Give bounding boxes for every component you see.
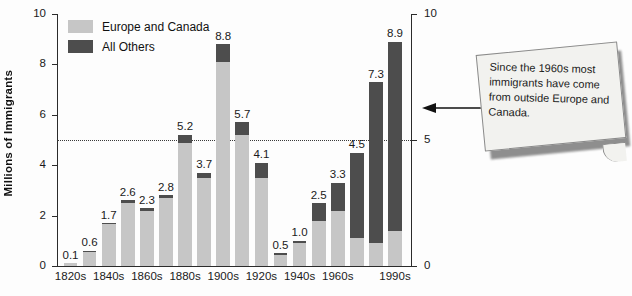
legend-label-all-others: All Others bbox=[102, 41, 155, 53]
left-tick-label-2: 2 bbox=[16, 210, 46, 222]
left-tick-8 bbox=[52, 64, 57, 65]
bar-segment-europe-and-canada bbox=[64, 263, 78, 266]
right-tick-0 bbox=[412, 266, 417, 267]
bar-1970s: 4.5 bbox=[350, 153, 364, 266]
callout-note: Since the 1960s most immigrants have com… bbox=[478, 48, 628, 160]
bar-segment-all-others bbox=[216, 44, 230, 62]
bar-segment-europe-and-canada bbox=[369, 243, 383, 266]
bar-1860s: 2.3 bbox=[140, 208, 154, 266]
left-tick-4 bbox=[52, 165, 57, 166]
x-tick-label-1900s: 1900s bbox=[208, 271, 239, 283]
bar-segment-all-others bbox=[121, 200, 135, 203]
x-tick-label-1940s: 1940s bbox=[284, 271, 315, 283]
bar-value-label: 1.0 bbox=[292, 227, 308, 239]
bar-value-label: 0.6 bbox=[82, 237, 98, 249]
x-tick-label-1920s: 1920s bbox=[246, 271, 277, 283]
bar-segment-europe-and-canada bbox=[178, 143, 192, 266]
bar-segment-all-others bbox=[293, 241, 307, 244]
bar-segment-all-others bbox=[388, 42, 402, 231]
bar-1870s: 2.8 bbox=[159, 195, 173, 266]
legend-item-europe-and-canada: Europe and Canada bbox=[68, 18, 209, 35]
x-tick-label-1880s: 1880s bbox=[169, 271, 200, 283]
bar-segment-all-others bbox=[159, 195, 173, 198]
left-tick-6 bbox=[52, 115, 57, 116]
bar-segment-europe-and-canada bbox=[159, 198, 173, 266]
bar-1940s: 1.0 bbox=[293, 241, 307, 266]
right-tick-5 bbox=[412, 140, 417, 141]
bar-value-label: 8.8 bbox=[215, 31, 231, 43]
bar-value-label: 4.1 bbox=[253, 149, 269, 161]
bar-segment-all-others bbox=[274, 253, 288, 254]
left-tick-label-4: 4 bbox=[16, 159, 46, 171]
bar-1950s: 2.5 bbox=[312, 203, 326, 266]
bar-segment-all-others bbox=[312, 203, 326, 221]
left-tick-label-8: 8 bbox=[16, 58, 46, 70]
bar-value-label: 0.1 bbox=[63, 250, 79, 262]
bar-1840s: 1.7 bbox=[102, 223, 116, 266]
left-tick-label-10: 10 bbox=[16, 8, 46, 20]
x-tick-label-1990s: 1990s bbox=[379, 271, 410, 283]
left-tick-label-6: 6 bbox=[16, 109, 46, 121]
right-tick-10 bbox=[412, 14, 417, 15]
bar-segment-all-others bbox=[83, 251, 97, 252]
bar-1900s: 8.8 bbox=[216, 44, 230, 266]
left-tick-2 bbox=[52, 216, 57, 217]
bar-segment-all-others bbox=[235, 122, 249, 135]
x-tick-label-1860s: 1860s bbox=[131, 271, 162, 283]
bar-segment-europe-and-canada bbox=[197, 178, 211, 266]
legend-item-all-others: All Others bbox=[68, 38, 209, 55]
bar-segment-all-others bbox=[197, 173, 211, 178]
legend-swatch-all-others bbox=[68, 40, 93, 53]
right-tick-label-10: 10 bbox=[424, 8, 454, 20]
bar-segment-all-others bbox=[369, 82, 383, 243]
bar-value-label: 3.7 bbox=[196, 159, 212, 171]
bar-segment-europe-and-canada bbox=[388, 231, 402, 266]
bar-1990s: 8.9 bbox=[388, 42, 402, 266]
bar-segment-all-others bbox=[331, 183, 345, 211]
bar-segment-europe-and-canada bbox=[235, 135, 249, 266]
callout-arrow-icon bbox=[420, 101, 482, 115]
legend-swatch-europe-and-canada bbox=[68, 20, 93, 33]
legend-label-europe-and-canada: Europe and Canada bbox=[102, 21, 209, 33]
bar-value-label: 2.8 bbox=[158, 182, 174, 194]
callout-text: Since the 1960s most immigrants have com… bbox=[488, 59, 612, 122]
right-tick-label-5: 5 bbox=[424, 134, 454, 146]
left-tick-0 bbox=[52, 266, 57, 267]
chart-figure: Millions of Immigrants 0246810 0510 0.10… bbox=[0, 0, 632, 296]
bar-value-label: 8.9 bbox=[387, 28, 403, 40]
bar-1850s: 2.6 bbox=[121, 200, 135, 266]
bar-segment-all-others bbox=[178, 135, 192, 143]
bar-value-label: 5.7 bbox=[234, 109, 250, 121]
bottom-axis-line bbox=[57, 266, 412, 267]
bar-segment-all-others bbox=[140, 208, 154, 211]
bar-segment-europe-and-canada bbox=[121, 203, 135, 266]
bar-value-label: 5.2 bbox=[177, 121, 193, 133]
bar-1960s: 3.3 bbox=[331, 183, 345, 266]
bar-1830s: 0.6 bbox=[83, 251, 97, 266]
left-tick-10 bbox=[52, 14, 57, 15]
bar-segment-all-others bbox=[255, 163, 269, 178]
bar-segment-all-others bbox=[350, 153, 364, 239]
bar-segment-all-others bbox=[102, 223, 116, 224]
bar-1890s: 3.7 bbox=[197, 173, 211, 266]
x-tick-label-1820s: 1820s bbox=[55, 271, 86, 283]
bar-value-label: 7.3 bbox=[368, 69, 384, 81]
bar-segment-europe-and-canada bbox=[331, 211, 345, 266]
bar-1920s: 4.1 bbox=[255, 163, 269, 266]
bar-value-label: 1.7 bbox=[101, 210, 117, 222]
callout-page-curl-icon bbox=[602, 142, 627, 163]
x-tick-label-1960s: 1960s bbox=[322, 271, 353, 283]
bar-value-label: 0.5 bbox=[272, 240, 288, 252]
bar-value-label: 4.5 bbox=[349, 139, 365, 151]
bar-value-label: 2.5 bbox=[311, 190, 327, 202]
legend: Europe and Canada All Others bbox=[68, 18, 209, 58]
bar-value-label: 2.3 bbox=[139, 195, 155, 207]
bar-1910s: 5.7 bbox=[235, 122, 249, 266]
bar-segment-europe-and-canada bbox=[274, 255, 288, 266]
right-tick-label-0: 0 bbox=[424, 260, 454, 272]
left-tick-label-0: 0 bbox=[16, 260, 46, 272]
bar-1880s: 5.2 bbox=[178, 135, 192, 266]
bar-1930s: 0.5 bbox=[274, 253, 288, 266]
bar-segment-europe-and-canada bbox=[350, 238, 364, 266]
bar-segment-europe-and-canada bbox=[216, 62, 230, 266]
